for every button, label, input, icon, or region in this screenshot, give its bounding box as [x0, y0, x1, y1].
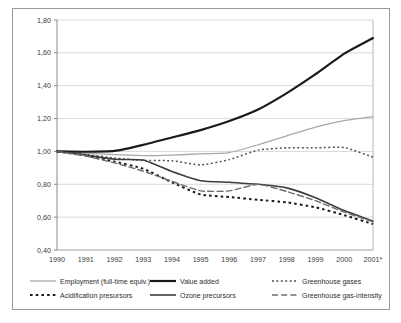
- x-axis-tick-label: 2001*: [364, 255, 383, 264]
- y-axis-labels: 1,801,601,401,201,000,800,600,40: [37, 16, 51, 255]
- series-line-3: [57, 151, 373, 224]
- series-line-1: [57, 38, 373, 152]
- y-axis-tick-label: 1,60: [37, 48, 51, 57]
- x-axis-tick-label: 1994: [164, 255, 180, 264]
- x-axis-tick-label: 1992: [106, 255, 122, 264]
- legend-label: Greenhouse gas-intensity: [302, 292, 382, 300]
- x-axis-labels: 1990199119921993199419951996199719981999…: [49, 255, 383, 264]
- legend-label: Acidification presursors: [60, 292, 133, 300]
- series-line-2: [57, 147, 373, 165]
- axes-group: [57, 20, 373, 250]
- y-axis-tick-label: 1,00: [37, 147, 51, 156]
- series-line-0: [57, 117, 373, 156]
- x-axis-tick-label: 1993: [135, 255, 151, 264]
- y-axis-tick-label: 1,80: [37, 16, 51, 25]
- chart-legend: Employment (full-time equiv.)Value added…: [30, 278, 382, 300]
- y-axis-tick-label: 0,80: [37, 180, 51, 189]
- chart-figure: 1,801,601,401,201,000,800,600,40 1990199…: [0, 0, 401, 323]
- x-axis-tick-label: 1995: [193, 255, 209, 264]
- x-axis-tick-label: 1999: [308, 255, 324, 264]
- x-axis-tick-label: 2000: [336, 255, 352, 264]
- legend-label: Value added: [180, 278, 219, 285]
- x-axis-tick-label: 1991: [78, 255, 94, 264]
- line-chart: 1,801,601,401,201,000,800,600,40 1990199…: [0, 0, 401, 323]
- legend-label: Ozone precursors: [180, 292, 236, 300]
- series-line-5: [57, 151, 373, 221]
- legend-label: Employment (full-time equiv.): [60, 278, 150, 286]
- y-axis-tick-label: 0,40: [37, 246, 51, 255]
- x-axis-tick-label: 1990: [49, 255, 65, 264]
- x-axis-tick-label: 1996: [221, 255, 237, 264]
- legend-label: Greenhouse gases: [302, 278, 362, 286]
- y-axis-tick-label: 0,60: [37, 213, 51, 222]
- y-axis-tick-label: 1,40: [37, 81, 51, 90]
- x-axis-tick-label: 1998: [279, 255, 295, 264]
- data-series-group: [57, 38, 373, 224]
- x-axis-tick-label: 1997: [250, 255, 266, 264]
- y-axis-tick-label: 1,20: [37, 114, 51, 123]
- series-line-4: [57, 151, 373, 221]
- gridlines-group: [57, 20, 373, 250]
